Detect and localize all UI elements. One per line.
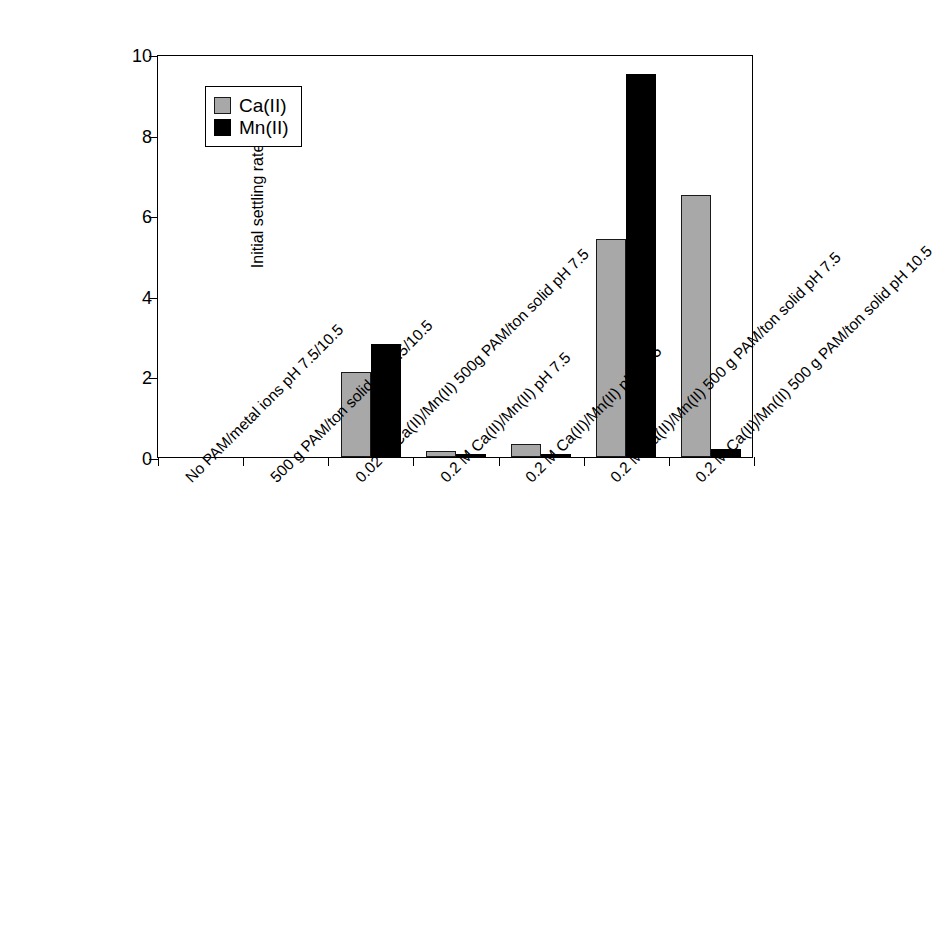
y-tick-label: 0 — [142, 449, 152, 470]
y-tick-label: 6 — [142, 207, 152, 228]
legend-label-ca: Ca(II) — [239, 96, 287, 115]
y-tick-label: 8 — [142, 126, 152, 147]
legend-item-ca: Ca(II) — [214, 96, 289, 115]
legend-swatch-ca-icon — [214, 97, 231, 114]
y-axis-label: Initial settling rate (m/h) — [249, 25, 267, 345]
legend-label-mn: Mn(II) — [239, 118, 289, 137]
bar-mn — [626, 74, 656, 457]
x-tick-mark — [669, 457, 670, 466]
bar-ca — [426, 451, 456, 457]
x-tick-mark — [499, 457, 500, 466]
bar-ca — [511, 444, 541, 457]
x-tick-mark — [158, 457, 159, 466]
y-tick-label: 4 — [142, 287, 152, 308]
legend-item-mn: Mn(II) — [214, 118, 289, 137]
y-tick-label: 2 — [142, 368, 152, 389]
x-tick-mark — [413, 457, 414, 466]
x-tick-mark — [584, 457, 585, 466]
x-tick-mark — [328, 457, 329, 466]
x-tick-mark — [243, 457, 244, 466]
bar-ca — [596, 239, 626, 457]
chart-legend: Ca(II) Mn(II) — [205, 86, 302, 147]
x-tick-mark — [754, 457, 755, 466]
plot-area: Initial settling rate (m/h) 0246810 Ca(I… — [157, 55, 753, 458]
y-tick-label: 10 — [132, 46, 152, 67]
legend-swatch-mn-icon — [214, 119, 231, 136]
